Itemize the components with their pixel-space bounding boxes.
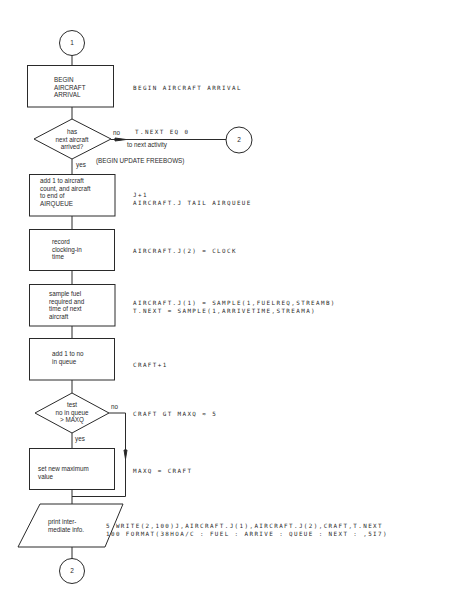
connector-2-label: 2 — [227, 136, 251, 143]
begin-box: BEGIN AIRCRAFT ARRIVAL — [54, 76, 86, 99]
box-add-aircraft: add 1 to aircraft count, and aircraft to… — [40, 177, 90, 208]
decision-maxq: test no in queue > MAXQ — [47, 401, 97, 424]
decision-arrived: has next aircraft arrived? — [50, 128, 94, 151]
code-add-queue: CRAFT+1 — [133, 361, 168, 369]
edge-label-maxq-no: no — [111, 403, 118, 411]
box-set-max: set new maximum value — [38, 465, 89, 480]
code-record-clock: AIRCRAFT.J(2) = CLOCK — [133, 247, 237, 255]
edge-label-arrived-no: no — [113, 129, 120, 137]
connector-2-end-label: 2 — [60, 567, 84, 574]
code-t-next-eq: T.NEXT EQ 0 — [135, 128, 189, 136]
edge-label-maxq-yes: yes — [75, 435, 85, 443]
box-record-clock: record clocking-in time — [52, 238, 82, 261]
edge-label-to-next-activity: to next activity — [127, 141, 167, 149]
connector-1-label: 1 — [60, 39, 84, 46]
code-sample-fuel: AIRCRAFT.J(1) = SAMPLE(1,FUELREQ,STREAMB… — [133, 299, 336, 315]
edge-label-begin-update: (BEGIN UPDATE FREEBOWS) — [96, 157, 184, 165]
code-print-info: 5 WRITE(2,100)J,AIRCRAFT.J(1),AIRCRAFT.J… — [106, 522, 388, 538]
code-test-maxq: CRAFT GT MAXQ ≈ 5 — [133, 410, 217, 418]
code-set-max: MAXQ = CRAFT — [133, 467, 192, 475]
box-sample-fuel: sample fuel required and time of next ai… — [49, 290, 84, 321]
io-print-info: print inter- mediate info. — [48, 518, 84, 533]
box-add-queue: add 1 to no in queue — [52, 350, 84, 365]
edge-label-arrived-yes: yes — [76, 161, 86, 169]
code-add-aircraft: J+1 AIRCRAFT.J TAIL AIRQUEUE — [133, 191, 252, 207]
code-begin: BEGIN AIRCRAFT ARRIVAL — [133, 84, 242, 92]
